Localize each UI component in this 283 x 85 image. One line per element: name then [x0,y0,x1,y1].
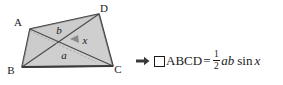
angle-label-x: x [82,34,88,46]
fraction-denominator: 2 [213,62,220,72]
variable-b: b [228,53,235,69]
diagonal-label-a: a [61,49,67,61]
figure-page: A D C B b a x ABCD = 1 2 a b sin x [0,0,283,85]
diagonal-label-b: b [56,24,62,36]
one-half-fraction: 1 2 [213,50,220,72]
vertex-label-b: B [7,64,14,76]
vertex-label-c: C [114,63,121,75]
quad-vertices-label: ABCD [166,53,202,69]
area-formula: ABCD = 1 2 a b sin x [136,47,260,75]
vertex-label-d: D [100,2,108,14]
geometry-figure: A D C B b a x [0,0,140,85]
vertex-label-a: A [14,16,22,28]
fraction-numerator: 1 [213,50,220,60]
sin-function: sin [237,53,252,69]
equals-sign: = [203,53,210,69]
formula-variable-x: x [254,53,260,69]
quadrilateral-square-icon [154,56,165,67]
right-arrow-icon [136,55,150,68]
edge-bc [22,66,113,67]
